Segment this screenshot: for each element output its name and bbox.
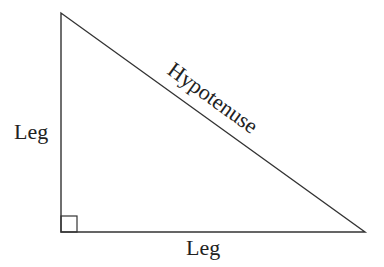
triangle-outline [61, 13, 365, 232]
right-triangle-diagram: Leg Leg Hypotenuse [0, 0, 384, 267]
left-leg-label: Leg [14, 119, 48, 144]
right-angle-marker [61, 216, 77, 232]
bottom-leg-label: Leg [186, 235, 220, 260]
